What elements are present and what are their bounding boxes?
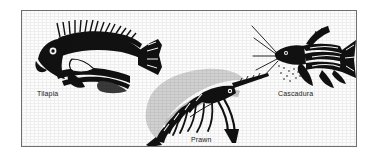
specimen-cascadura: Cascadura [250, 16, 357, 104]
specimen-label-tilapia: Tilapia [37, 90, 58, 97]
figure-panel: Tilapia [21, 10, 357, 147]
specimen-label-prawn: Prawn [191, 136, 212, 143]
specimen-label-cascadura: Cascadura [278, 90, 313, 97]
